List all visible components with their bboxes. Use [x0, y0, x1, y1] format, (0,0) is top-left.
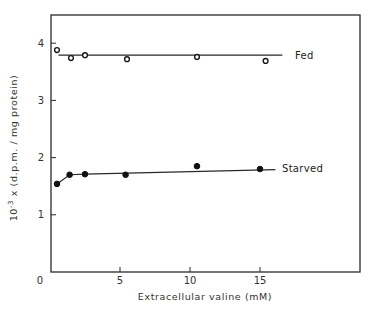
- x-tick-label: 15: [254, 275, 267, 286]
- starved-data-point: [82, 171, 88, 177]
- y-axis-title-base: 10: [8, 208, 19, 221]
- y-tick-label: 1: [38, 209, 44, 220]
- fed-data-point: [55, 48, 60, 53]
- series-label-fed: Fed: [295, 50, 314, 61]
- series-layer: [54, 48, 282, 187]
- starved-data-point: [54, 181, 60, 187]
- fed-data-point: [125, 57, 130, 62]
- fed-data-point: [263, 59, 268, 64]
- starved-fit-line: [57, 170, 275, 184]
- y-tick-label: 3: [38, 95, 44, 106]
- y-axis-title-units: x (d.p.m. / mg protein): [8, 75, 19, 200]
- plot-frame: [51, 15, 360, 272]
- x-axis-title: Extracellular valine (mM): [138, 291, 272, 302]
- origin-label: 0: [37, 275, 43, 286]
- starved-data-point: [194, 163, 200, 169]
- starved-data-point: [123, 172, 129, 178]
- x-tick-label: 5: [117, 275, 123, 286]
- y-tick-label: 2: [38, 152, 44, 163]
- y-axis-title-text: 10-3 x (d.p.m. / mg protein): [7, 75, 19, 222]
- y-tick-label: 4: [38, 38, 44, 49]
- scatter-plot: 1234 51015 0 Extracellular valine (mM) 1…: [0, 0, 380, 312]
- x-tick-label: 10: [184, 275, 197, 286]
- y-axis-title: 10-3 x (d.p.m. / mg protein): [7, 75, 19, 222]
- starved-data-point: [257, 166, 263, 172]
- chart: 1234 51015 0 Extracellular valine (mM) 1…: [0, 0, 380, 312]
- series-fed: [55, 48, 283, 64]
- starved-data-point: [67, 172, 73, 178]
- fed-data-point: [83, 53, 88, 58]
- y-axis-title-exponent: -3: [7, 200, 15, 208]
- series-starved: [54, 163, 275, 186]
- y-axis: 1234: [38, 38, 56, 221]
- fed-data-point: [195, 55, 200, 60]
- series-label-starved: Starved: [282, 163, 323, 174]
- fed-data-point: [69, 56, 74, 61]
- x-axis: 51015: [117, 267, 267, 286]
